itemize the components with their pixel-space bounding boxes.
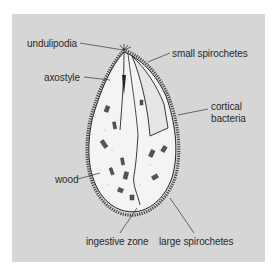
label-wood: wood <box>55 174 79 185</box>
label-bacteria: bacteria <box>211 113 246 124</box>
label-small-spirochetes: small spirochetes <box>172 48 248 59</box>
label-axostyle: axostyle <box>44 72 80 83</box>
label-large-spirochetes: large spirochetes <box>159 236 233 247</box>
label-ingestive-zone: ingestive zone <box>86 236 149 247</box>
undulipodia-tuft <box>120 44 131 50</box>
label-cortical: cortical <box>211 101 242 112</box>
label-undulipodia: undulipodia <box>27 38 77 49</box>
cell-body <box>89 52 176 212</box>
